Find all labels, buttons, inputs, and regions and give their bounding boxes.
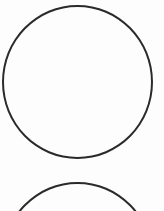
circle-outline-top	[2, 5, 153, 159]
drawing-canvas	[0, 0, 164, 211]
circle-outline-bottom-partial	[2, 182, 153, 211]
